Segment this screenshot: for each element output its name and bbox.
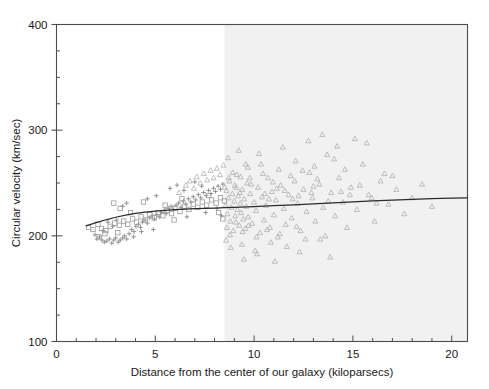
chart-canvas: 05101520100200300400Distance from the ce… xyxy=(0,0,489,389)
data-point-cross xyxy=(200,184,204,188)
series-inner-disk-crosses xyxy=(93,180,225,246)
data-point-cross xyxy=(134,224,138,228)
data-point-triangle xyxy=(198,180,203,185)
data-point-cross xyxy=(105,239,109,243)
data-point-cross xyxy=(106,220,110,224)
data-point-triangle xyxy=(205,177,210,182)
data-point-cross xyxy=(193,180,197,184)
data-point-square xyxy=(118,206,122,210)
data-point-cross xyxy=(148,216,152,220)
x-tick-label: 0 xyxy=(53,348,59,360)
data-point-cross xyxy=(175,183,179,187)
data-point-triangle xyxy=(211,175,216,180)
data-point-cross xyxy=(131,235,135,239)
data-point-triangle xyxy=(187,178,192,183)
y-tick-label: 200 xyxy=(28,230,47,242)
data-point-cross xyxy=(168,186,172,190)
data-point-cross xyxy=(196,192,200,196)
y-axis-title: Circular velocity (km/sec) xyxy=(10,119,22,248)
x-axis-title: Distance from the center of our galaxy (… xyxy=(131,366,394,378)
data-point-square xyxy=(169,211,173,215)
data-point-cross xyxy=(124,201,128,205)
data-point-square xyxy=(163,203,167,207)
y-tick-label: 100 xyxy=(28,336,47,348)
data-point-cross xyxy=(186,197,190,201)
data-point-triangle xyxy=(194,174,199,179)
data-point-square xyxy=(214,201,218,205)
series-inner-disk-squares xyxy=(86,193,226,239)
data-point-cross xyxy=(132,229,136,233)
data-point-square xyxy=(91,227,95,231)
x-tick-label: 15 xyxy=(346,348,359,360)
data-point-cross xyxy=(202,190,206,194)
data-point-cross xyxy=(182,188,186,192)
data-point-cross xyxy=(102,240,106,244)
data-point-triangle xyxy=(191,186,196,191)
data-point-cross xyxy=(100,238,104,242)
data-point-cross xyxy=(154,193,158,197)
data-point-cross xyxy=(151,227,155,231)
data-point-square xyxy=(112,201,116,205)
x-tick-label: 20 xyxy=(445,348,458,360)
data-point-cross xyxy=(199,196,203,200)
data-point-triangle xyxy=(218,172,223,177)
data-point-triangle xyxy=(201,171,206,176)
data-point-square xyxy=(117,223,121,227)
y-tick-label: 400 xyxy=(28,19,47,31)
data-point-square xyxy=(116,230,120,234)
data-point-square xyxy=(141,200,145,204)
shaded-region xyxy=(224,25,467,342)
rotation-curve-figure: 05101520100200300400Distance from the ce… xyxy=(0,0,489,389)
data-point-cross xyxy=(129,227,133,231)
x-tick-label: 5 xyxy=(152,348,158,360)
data-point-cross xyxy=(139,229,143,233)
y-tick-label: 300 xyxy=(28,124,47,136)
data-point-square xyxy=(191,202,195,206)
data-point-cross xyxy=(216,184,220,188)
data-point-cross xyxy=(191,195,195,199)
data-point-triangle xyxy=(176,190,181,195)
data-point-cross xyxy=(107,237,111,241)
data-point-cross xyxy=(219,214,223,218)
data-point-cross xyxy=(127,232,131,236)
data-point-square xyxy=(204,203,208,207)
data-point-square xyxy=(216,210,220,214)
data-point-square xyxy=(139,215,143,219)
data-point-cross xyxy=(185,215,189,219)
data-point-square xyxy=(200,200,204,204)
data-point-cross xyxy=(203,210,207,214)
data-point-cross xyxy=(194,198,198,202)
x-tick-label: 10 xyxy=(248,348,261,360)
data-point-cross xyxy=(176,201,180,205)
data-point-cross xyxy=(206,188,210,192)
data-point-square xyxy=(209,198,213,202)
data-point-triangle xyxy=(208,168,213,173)
data-point-square xyxy=(172,218,176,222)
data-point-triangle xyxy=(214,166,219,171)
